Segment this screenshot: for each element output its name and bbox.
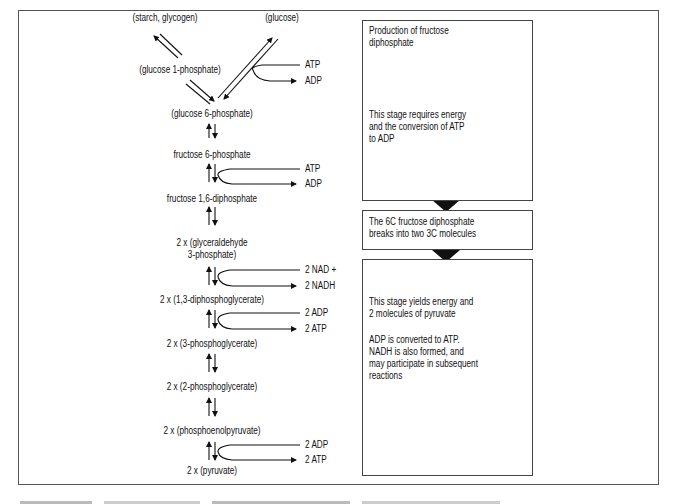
label-g3p-line2: 3-phosphate)	[171, 249, 253, 261]
label-glucose-1-phosphate: (glucose 1-phosphate)	[131, 64, 229, 76]
label-1-3-diphosphoglycerate: 2 x (1,3-diphosphoglycerate)	[146, 294, 277, 306]
side-adp-2: ADP	[305, 178, 322, 190]
side-nad: 2 NAD +	[305, 264, 336, 276]
stage-box-3: This stage yields energy and 2 molecules…	[362, 259, 533, 476]
label-fructose-1-6-diphosphate: fructose 1,6-diphosphate	[155, 193, 270, 205]
label-fructose-6-phosphate: fructose 6-phosphate	[163, 149, 261, 161]
label-2-phosphoglycerate: 2 x (2-phosphoglycerate)	[155, 381, 270, 393]
side-adp-4: 2 ADP	[305, 439, 328, 451]
clipped-caption	[20, 497, 620, 504]
side-atp-2: ATP	[305, 163, 320, 175]
pathway-arrows	[0, 0, 678, 504]
stage-1-body: This stage requires energy and the conve…	[369, 109, 549, 145]
stage-1-title: Production of fructose diphosphate	[369, 25, 549, 49]
stage-3-body: ADP is converted to ATP. NADH is also fo…	[369, 334, 549, 382]
label-glucose-6-phosphate: (glucose 6-phosphate)	[159, 108, 266, 120]
side-nadh: 2 NADH	[305, 280, 335, 292]
side-atp-3: 2 ATP	[305, 323, 327, 335]
label-pyruvate: 2 x (pyruvate)	[171, 465, 253, 477]
label-glucose: (glucose)	[257, 12, 306, 24]
stage-3-title: This stage yields energy and 2 molecules…	[369, 296, 549, 320]
side-atp-1: ATP	[305, 59, 320, 71]
stage-box-1: Production of fructose diphosphate This …	[362, 20, 533, 201]
side-atp-4: 2 ATP	[305, 454, 327, 466]
label-phosphoenolpyruvate: 2 x (phosphoenolpyruvate)	[151, 425, 274, 437]
stage-2-title: The 6C fructose diphosphate breaks into …	[369, 216, 549, 240]
label-starch-glycogen: (starch, glycogen)	[120, 12, 210, 24]
stage-box-2: The 6C fructose diphosphate breaks into …	[362, 210, 533, 250]
side-adp-1: ADP	[305, 75, 322, 87]
label-3-phosphoglycerate: 2 x (3-phosphoglycerate)	[155, 338, 270, 350]
side-adp-3: 2 ADP	[305, 307, 328, 319]
label-g3p-line1: 2 x (glyceraldehyde	[159, 237, 266, 249]
